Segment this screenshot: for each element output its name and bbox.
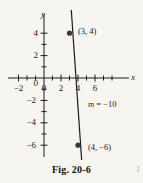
y-tick-label: −4 xyxy=(20,118,36,127)
y-axis-title: y xyxy=(41,10,45,19)
figure-caption: Fig. 20-6 xyxy=(0,164,143,175)
data-point-label-top: (3, 4) xyxy=(78,27,96,36)
slope-annotation: m = −10 xyxy=(88,100,116,109)
figure-20-6: y x −2 0 2 4 6 4 2 0 −2 −4 −6 (3, 4) (4,… xyxy=(0,0,143,183)
data-point-marker xyxy=(75,143,80,148)
coordinate-plot: y x −2 0 2 4 6 4 2 0 −2 −4 −6 (3, 4) (4,… xyxy=(0,0,143,160)
y-tick-label: −2 xyxy=(20,96,36,105)
x-tick-label: 2 xyxy=(53,84,69,93)
y-tick-label: −6 xyxy=(20,141,36,150)
y-tick-label: 2 xyxy=(22,51,38,60)
page-marker: 1 xyxy=(136,165,140,174)
y-tick-label: 4 xyxy=(22,29,38,38)
slope-value: −10 xyxy=(103,99,116,109)
x-tick-label: 0 xyxy=(36,84,52,93)
x-axis-title: x xyxy=(131,73,135,82)
data-point-label-bottom: (4, −6) xyxy=(88,143,111,152)
data-point-marker xyxy=(67,31,72,36)
x-tick-label: 4 xyxy=(70,84,86,93)
slope-relation: = xyxy=(94,99,103,109)
x-tick-label: 6 xyxy=(87,84,103,93)
y-tick-label: 0 xyxy=(22,79,38,88)
